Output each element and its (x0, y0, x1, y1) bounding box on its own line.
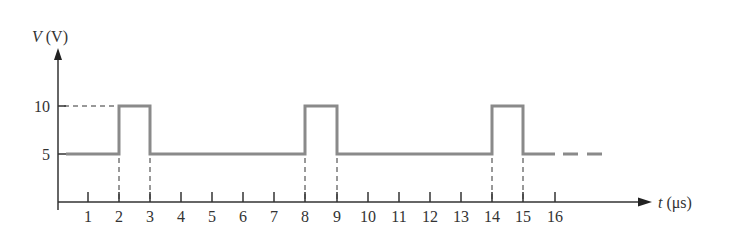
svg-text:1: 1 (84, 208, 92, 225)
svg-text:15: 15 (515, 208, 531, 225)
svg-text:16: 16 (547, 208, 563, 225)
svg-text:3: 3 (146, 208, 154, 225)
svg-text:14: 14 (484, 208, 500, 225)
svg-text:10: 10 (360, 208, 376, 225)
svg-text:11: 11 (391, 208, 406, 225)
x-axis-arrow-icon (638, 198, 652, 207)
x-ticks (88, 192, 555, 202)
x-tick-labels: 1 2 3 4 5 6 7 8 9 10 11 12 13 14 15 16 (84, 208, 563, 225)
y-tick-label: 5 (42, 146, 50, 163)
y-tick-label: 10 (34, 98, 50, 115)
svg-text:6: 6 (239, 208, 247, 225)
svg-text:8: 8 (301, 208, 309, 225)
svg-text:5: 5 (208, 208, 216, 225)
svg-text:9: 9 (333, 208, 341, 225)
y-axis-arrow-icon (54, 48, 62, 60)
svg-text:12: 12 (422, 208, 438, 225)
x-axis-label: t (μs) (658, 194, 692, 212)
pulse-waveform-chart: V (V) 10 5 1 2 3 4 5 6 7 8 9 10 11 12 13… (0, 0, 734, 234)
svg-text:4: 4 (177, 208, 185, 225)
svg-text:13: 13 (453, 208, 469, 225)
y-axis-label: V (V) (32, 28, 68, 46)
svg-text:2: 2 (115, 208, 123, 225)
signal-trace (66, 106, 555, 154)
svg-text:7: 7 (270, 208, 278, 225)
